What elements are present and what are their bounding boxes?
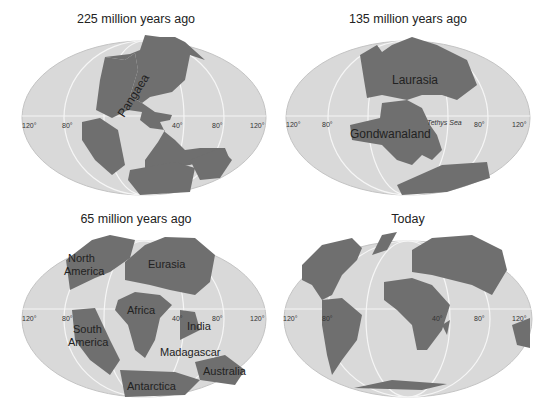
tick-label: 80°	[474, 121, 485, 128]
globe-map: North America Eurasia Africa South Ameri…	[0, 200, 272, 403]
label-gondwanaland: Gondwanaland	[350, 127, 431, 141]
tick-label: 120°	[512, 121, 527, 128]
label-africa: Africa	[127, 304, 156, 316]
label-antarctica: Antarctica	[127, 380, 177, 392]
label-north-america-2: America	[64, 265, 105, 277]
label-india: India	[187, 320, 212, 332]
tick-label: 120°	[512, 315, 527, 322]
map-panel-today: Today 120° 80° 40° 80° 120°	[272, 200, 544, 400]
globe-map: 120° 80° 40° 80° 120°	[272, 200, 545, 403]
label-eurasia: Eurasia	[148, 258, 186, 270]
tick-label: 80°	[474, 315, 485, 322]
tick-label: 120°	[250, 315, 265, 322]
tick-label: 120°	[22, 122, 37, 129]
tick-label: 80°	[322, 315, 333, 322]
label-madagascar: Madagascar	[160, 346, 221, 358]
label-south-america-2: America	[68, 336, 109, 348]
map-panel-65mya: 65 million years ago North America Euras…	[0, 200, 272, 400]
tick-label: 120°	[286, 121, 301, 128]
tick-label: 40°	[432, 315, 443, 322]
map-panel-135mya: 135 million years ago Laurasia Gondwanal…	[272, 0, 544, 200]
tick-label: 80°	[62, 122, 73, 129]
tick-label: 120°	[22, 315, 37, 322]
tick-label: 80°	[212, 122, 223, 129]
tick-label: 120°	[250, 122, 265, 129]
map-panel-225mya: 225 million years ago Pangaea 120° 80° 4…	[0, 0, 272, 200]
tick-label: 40°	[172, 122, 183, 129]
tick-label: 80°	[322, 121, 333, 128]
label-north-america-1: North	[68, 252, 95, 264]
tick-label: 40°	[172, 315, 183, 322]
globe-map: Laurasia Gondwanaland Tethys Sea 120° 80…	[272, 0, 545, 200]
tick-label: 80°	[62, 315, 73, 322]
globe-map: Pangaea 120° 80° 40° 80° 120°	[0, 0, 272, 200]
tick-label: 120°	[283, 315, 298, 322]
tick-label: 80°	[212, 315, 223, 322]
label-south-america-1: South	[73, 323, 102, 335]
label-laurasia: Laurasia	[392, 73, 438, 87]
label-australia: Australia	[203, 365, 247, 377]
label-tethys-sea: Tethys Sea	[427, 119, 462, 127]
